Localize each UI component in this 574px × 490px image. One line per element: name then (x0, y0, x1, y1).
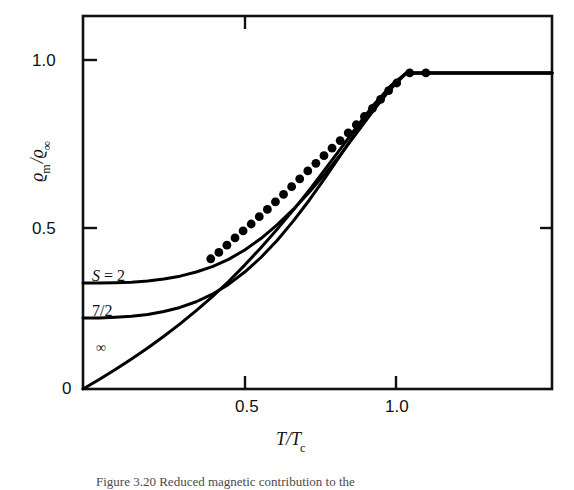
y-axis-divider: / (27, 158, 47, 163)
y-axis-subscript-m: m (39, 164, 53, 173)
curve-label-s-value: 2 (117, 267, 125, 284)
data-point (279, 190, 288, 199)
curve-label-s-equals: = (100, 267, 117, 284)
data-point (328, 144, 337, 153)
data-point (344, 129, 353, 138)
data-point (206, 254, 215, 263)
data-point (247, 220, 256, 229)
y-axis-rho-inf: ϱ (27, 149, 47, 158)
data-point (336, 136, 345, 145)
data-point (271, 197, 280, 206)
data-point (287, 182, 296, 191)
data-point (376, 95, 385, 104)
x-axis-title-subscript: c (300, 441, 305, 455)
data-point (231, 234, 240, 243)
data-point (352, 120, 361, 129)
data-point (214, 248, 223, 257)
curve-label-s-symbol: S (92, 267, 100, 284)
y-tick-label-0: 0 (62, 380, 71, 397)
y-tick-label-1.0: 1.0 (32, 52, 56, 69)
y-tick-label-0.5: 0.5 (32, 220, 56, 237)
data-point (295, 174, 304, 183)
curve-label-7-over-2: 7/2 (92, 303, 112, 319)
curve-label-s-equals-2: S = 2 (92, 268, 125, 284)
figure-caption: Figure 3.20 Reduced magnetic contributio… (96, 474, 496, 490)
data-point (360, 112, 369, 121)
data-point (384, 86, 393, 95)
data-point (239, 227, 248, 236)
data-point (263, 205, 272, 214)
y-axis-subscript-infinity: ∞ (39, 141, 54, 150)
data-point (392, 79, 401, 88)
data-point (368, 104, 377, 113)
data-point (303, 166, 312, 175)
data-point (311, 159, 320, 168)
x-axis-title-main: T/T (276, 429, 301, 449)
y-axis-title: ϱm/ϱ∞ (28, 116, 50, 206)
data-point (255, 212, 264, 221)
x-tick-label-0.5: 0.5 (235, 398, 259, 415)
curve-label-infinity: ∞ (96, 341, 106, 355)
data-point (320, 151, 329, 160)
y-axis-rho-m: ϱ (27, 173, 47, 182)
x-tick-label-1.0: 1.0 (385, 398, 409, 415)
data-point (421, 69, 430, 78)
data-point (223, 241, 232, 250)
data-point (405, 69, 414, 78)
x-axis-title: T/Tc (276, 430, 306, 452)
